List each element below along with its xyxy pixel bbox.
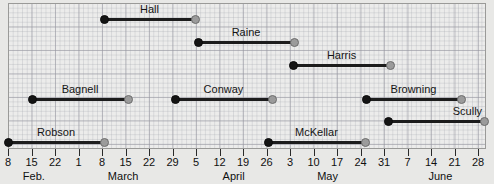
task-end-marker-icon[interactable] bbox=[100, 138, 109, 147]
axis-tick-label: 14 bbox=[425, 156, 437, 168]
axis-tick bbox=[126, 149, 127, 156]
task-end-marker-icon[interactable] bbox=[268, 95, 277, 104]
task-start-marker-icon[interactable] bbox=[100, 15, 109, 24]
axis-tick bbox=[79, 149, 80, 156]
axis-tick bbox=[455, 149, 456, 156]
task-label: Browning bbox=[391, 84, 437, 95]
task-start-marker-icon[interactable] bbox=[264, 138, 273, 147]
axis-tick-label: 8 bbox=[5, 156, 11, 168]
axis-month-label: April bbox=[223, 170, 245, 182]
task-label: McKellar bbox=[295, 127, 338, 138]
task-end-marker-icon[interactable] bbox=[480, 117, 489, 126]
task-label: Bagnell bbox=[62, 84, 99, 95]
axis-tick bbox=[149, 149, 150, 156]
task-label: Scully bbox=[453, 106, 482, 117]
axis-tick bbox=[337, 149, 338, 156]
axis-month-label: Feb. bbox=[23, 170, 45, 182]
task-bar-line bbox=[388, 120, 484, 123]
task-bar-line bbox=[8, 141, 104, 144]
axis-tick-label: 10 bbox=[307, 156, 319, 168]
axis-tick-label: 15 bbox=[119, 156, 131, 168]
axis-month-label: May bbox=[317, 170, 338, 182]
axis-tick-label: 21 bbox=[448, 156, 460, 168]
task-bar-line bbox=[268, 141, 365, 144]
axis-tick-label: 31 bbox=[378, 156, 390, 168]
axis-tick bbox=[384, 149, 385, 156]
task-bar-line bbox=[366, 98, 461, 101]
task-label: Harris bbox=[327, 50, 356, 61]
task-end-marker-icon[interactable] bbox=[361, 138, 370, 147]
axis-tick bbox=[196, 149, 197, 156]
task-start-marker-icon[interactable] bbox=[28, 95, 37, 104]
task-bar-line bbox=[104, 18, 195, 21]
gantt-chart: HallRaineHarrisBagnellConwayBrowningScul… bbox=[0, 0, 494, 184]
task-start-marker-icon[interactable] bbox=[171, 95, 180, 104]
axis-tick bbox=[8, 149, 9, 156]
axis-tick bbox=[314, 149, 315, 156]
axis-tick-label: 22 bbox=[49, 156, 61, 168]
task-start-marker-icon[interactable] bbox=[289, 61, 298, 70]
time-axis: 815221815222951219263101724317142128Feb.… bbox=[8, 149, 486, 184]
task-bar-line bbox=[175, 98, 272, 101]
axis-tick bbox=[173, 149, 174, 156]
axis-tick-label: 1 bbox=[75, 156, 81, 168]
axis-tick-label: 3 bbox=[287, 156, 293, 168]
axis-tick-label: 26 bbox=[260, 156, 272, 168]
task-bar-line bbox=[293, 64, 390, 67]
axis-tick-label: 8 bbox=[99, 156, 105, 168]
task-bar-line bbox=[198, 41, 294, 44]
axis-tick-label: 17 bbox=[331, 156, 343, 168]
axis-tick bbox=[290, 149, 291, 156]
axis-tick-label: 28 bbox=[472, 156, 484, 168]
axis-month-label: March bbox=[108, 170, 139, 182]
axis-tick bbox=[408, 149, 409, 156]
task-label: Hall bbox=[140, 4, 159, 15]
axis-tick bbox=[478, 149, 479, 156]
axis-tick-label: 24 bbox=[354, 156, 366, 168]
axis-tick-label: 12 bbox=[213, 156, 225, 168]
axis-tick-label: 22 bbox=[143, 156, 155, 168]
task-bar-line bbox=[32, 98, 128, 101]
task-end-marker-icon[interactable] bbox=[290, 38, 299, 47]
axis-tick bbox=[220, 149, 221, 156]
task-end-marker-icon[interactable] bbox=[191, 15, 200, 24]
axis-tick bbox=[361, 149, 362, 156]
axis-tick-label: 7 bbox=[404, 156, 410, 168]
axis-tick-label: 5 bbox=[193, 156, 199, 168]
axis-month-label: June bbox=[428, 170, 452, 182]
task-label: Raine bbox=[232, 27, 261, 38]
task-end-marker-icon[interactable] bbox=[457, 95, 466, 104]
task-bars-layer: HallRaineHarrisBagnellConwayBrowningScul… bbox=[8, 3, 486, 149]
task-end-marker-icon[interactable] bbox=[386, 61, 395, 70]
task-label: Conway bbox=[204, 84, 244, 95]
axis-tick-label: 15 bbox=[25, 156, 37, 168]
axis-tick bbox=[55, 149, 56, 156]
axis-tick-label: 19 bbox=[237, 156, 249, 168]
axis-tick bbox=[243, 149, 244, 156]
task-label: Robson bbox=[37, 127, 75, 138]
task-start-marker-icon[interactable] bbox=[384, 117, 393, 126]
task-end-marker-icon[interactable] bbox=[124, 95, 133, 104]
axis-tick bbox=[267, 149, 268, 156]
task-start-marker-icon[interactable] bbox=[194, 38, 203, 47]
axis-tick bbox=[102, 149, 103, 156]
axis-tick bbox=[431, 149, 432, 156]
task-start-marker-icon[interactable] bbox=[4, 138, 13, 147]
task-start-marker-icon[interactable] bbox=[362, 95, 371, 104]
axis-tick bbox=[32, 149, 33, 156]
axis-tick-label: 29 bbox=[166, 156, 178, 168]
